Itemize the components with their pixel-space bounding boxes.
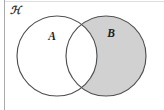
set-a-label: A — [47, 30, 56, 42]
set-b-label: B — [106, 27, 115, 39]
venn-diagram-figure: ℋ A B — [0, 0, 164, 110]
shaded-region-b-minus-a — [0, 0, 164, 110]
venn-diagram-canvas: ℋ A B — [0, 0, 164, 110]
